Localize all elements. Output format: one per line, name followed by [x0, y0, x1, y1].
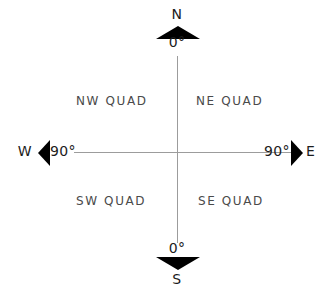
east-arrowhead-icon	[291, 140, 303, 166]
cardinal-label-north: N	[160, 6, 194, 22]
west-arrowhead-icon	[38, 140, 50, 166]
bearing-label-north: 0°	[160, 34, 194, 50]
bearing-label-west: 90°	[50, 143, 76, 159]
south-arrowhead-icon	[156, 257, 200, 270]
cardinal-label-west: W	[12, 143, 32, 159]
cardinal-label-south: S	[160, 271, 194, 287]
quadrant-label-ne: NE QUAD	[196, 94, 263, 108]
bearing-label-east: 90°	[256, 143, 290, 159]
quadrant-label-sw: SW QUAD	[76, 194, 146, 208]
bearing-label-south: 0°	[160, 240, 194, 256]
quadrant-label-nw: NW QUAD	[76, 94, 148, 108]
cardinal-label-east: E	[306, 143, 326, 159]
north-south-axis-line	[177, 56, 178, 243]
quadrant-label-se: SE QUAD	[198, 194, 264, 208]
compass-quadrant-diagram: N S W E 0° 0° 90° 90° NW QUAD NE QUAD SW…	[0, 0, 330, 296]
